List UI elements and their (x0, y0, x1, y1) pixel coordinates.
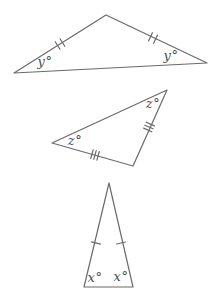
bottom-triangle-right-side-single-tick-icon (117, 242, 126, 244)
middle-triangle-top-right-angle-label: z° (145, 96, 160, 111)
middle-triangle-bottom-side-triple-tick-icon (91, 150, 100, 160)
bottom-triangle-left-side-single-tick-icon (92, 242, 101, 244)
diagram-labels: y° y° z° z° x° x° (37, 48, 179, 285)
top-triangle-left-angle-label: y° (37, 54, 53, 69)
bottom-triangle-right-angle-label: x° (114, 269, 129, 284)
middle-triangle-right-side-triple-tick-icon (144, 122, 155, 132)
top-triangle-right-angle-label: y° (163, 48, 179, 63)
triangle-diagram: y° y° z° z° x° x° (0, 0, 214, 304)
middle-triangle-left-angle-label: z° (67, 133, 82, 148)
bottom-triangle-left-angle-label: x° (88, 270, 103, 285)
geometry-figure: y° y° z° z° x° x° (0, 0, 214, 304)
